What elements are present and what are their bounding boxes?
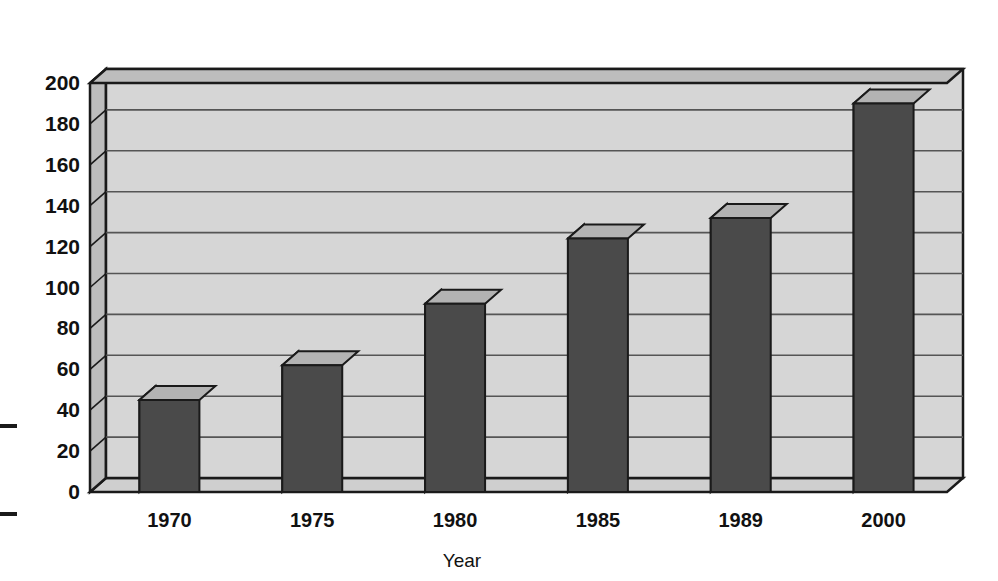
x-tick-label: 1975	[290, 509, 335, 531]
plot-area	[90, 69, 963, 492]
y-tick-label: 60	[57, 357, 80, 380]
bar-front-face	[282, 365, 342, 492]
bar-front-face	[425, 304, 485, 492]
y-tick-label: 140	[45, 194, 80, 217]
edge-tick-lower-icon	[0, 512, 17, 516]
y-tick-label: 100	[45, 276, 80, 299]
x-tick-label: 1970	[147, 509, 192, 531]
y-axis-tick-labels: 020406080100120140160180200	[45, 71, 80, 503]
y-tick-label: 160	[45, 153, 80, 176]
x-tick-label: 1985	[576, 509, 621, 531]
x-tick-label: 1989	[719, 509, 764, 531]
y-tick-label: 180	[45, 112, 80, 135]
chart-page: 020406080100120140160180200 197019751980…	[0, 0, 998, 581]
bar-chart-3d: 020406080100120140160180200 197019751980…	[0, 0, 998, 581]
scan-edge-marks	[0, 424, 17, 516]
y-tick-label: 20	[57, 439, 80, 462]
bar-front-face	[854, 103, 914, 492]
bar-front-face	[568, 238, 628, 492]
x-tick-label: 1980	[433, 509, 478, 531]
y-tick-label: 40	[57, 398, 80, 421]
y-tick-label: 120	[45, 235, 80, 258]
edge-tick-upper-icon	[0, 424, 17, 428]
x-tick-label: 2000	[861, 509, 906, 531]
y-tick-label: 200	[45, 71, 80, 94]
x-axis-title: Year	[443, 550, 482, 571]
y-tick-label: 0	[68, 480, 80, 503]
plot-ceiling	[90, 69, 963, 83]
x-axis-tick-labels: 197019751980198519892000	[147, 509, 906, 531]
y-tick-label: 80	[57, 316, 80, 339]
bar-front-face	[711, 218, 771, 492]
bar-front-face	[139, 400, 199, 492]
plot-floor	[90, 478, 963, 492]
